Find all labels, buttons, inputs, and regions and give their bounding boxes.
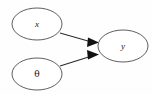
diagram-canvas: x θ y [0, 0, 153, 94]
edge-x-to-y-arrowhead-icon [87, 38, 99, 48]
node-theta[interactable]: θ [12, 58, 62, 90]
edge-theta-to-y [60, 50, 99, 66]
node-y[interactable]: y [98, 30, 148, 62]
node-x[interactable]: x [12, 8, 62, 40]
edge-theta-to-y-arrowhead-icon [87, 50, 99, 60]
node-x-label: x [34, 19, 39, 29]
edge-x-to-y [60, 33, 99, 47]
node-theta-label: θ [34, 69, 39, 79]
node-y-label: y [120, 41, 125, 51]
causal-diagram: x θ y [0, 0, 153, 94]
